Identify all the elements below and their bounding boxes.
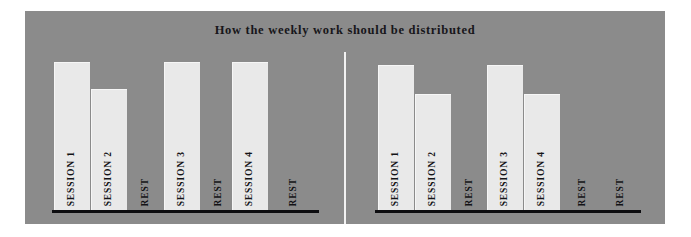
left-bar-session-1 — [54, 62, 90, 210]
left-label-5: REST — [201, 114, 236, 206]
left-bar-session-3 — [164, 62, 200, 210]
left-axis-line — [52, 210, 319, 213]
left-chart: SESSION 1 SESSION 2 REST SESSION 3 — [52, 11, 346, 224]
left-bar-session-2 — [91, 89, 127, 210]
right-chart: SESSION 1 SESSION 2 REST SESSION 3 — [375, 11, 665, 224]
right-label-7: REST — [603, 114, 638, 206]
right-label-3: REST — [452, 114, 487, 206]
left-label-3: REST — [128, 114, 163, 206]
right-label-6: REST — [565, 114, 600, 206]
right-bar-session-3 — [487, 65, 523, 210]
left-bar-session-4 — [232, 62, 268, 210]
right-bar-session-2 — [415, 94, 451, 210]
chart-panel: How the weekly work should be distribute… — [25, 11, 665, 224]
chart-screenshot: How the weekly work should be distribute… — [0, 0, 691, 237]
right-bar-session-4 — [524, 94, 560, 210]
left-label-7: REST — [276, 114, 311, 206]
right-bar-session-1 — [378, 65, 414, 210]
right-axis-line — [375, 210, 641, 213]
